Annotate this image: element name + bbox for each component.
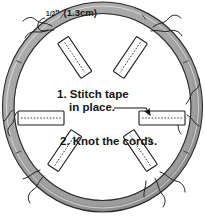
tape-body <box>58 36 92 78</box>
diagram-canvas: 1/2"(1.3cm) 1. Stitch tape in place. 2. … <box>0 0 205 218</box>
dimension-label: 1/2"(1.3cm) <box>46 7 97 18</box>
tape-top-right <box>113 36 147 78</box>
step-2-line-1: 2. Knot the cords. <box>60 135 157 147</box>
tape-top-left <box>58 36 92 78</box>
step-1-line-2: in place. <box>69 101 115 113</box>
step-1-line-1: 1. Stitch tape <box>57 88 129 100</box>
instruction-step-1: 1. Stitch tape in place. <box>57 88 150 115</box>
tape-left <box>18 111 64 125</box>
tape-right <box>139 111 185 125</box>
instruction-step-2: 2. Knot the cords. <box>60 135 157 147</box>
dimension-unit-mark: " <box>55 7 60 18</box>
tape-body <box>113 36 147 78</box>
hoop-tape-diagram: 1/2"(1.3cm) 1. Stitch tape in place. 2. … <box>0 0 205 218</box>
dimension-metric: (1.3cm) <box>64 7 97 18</box>
